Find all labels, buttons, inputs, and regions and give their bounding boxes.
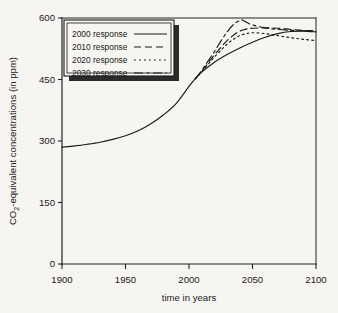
- chart-legend[interactable]: 2000 response2010 response2020 response2…: [64, 20, 179, 81]
- legend-label-2020: 2020 response: [72, 55, 128, 65]
- x-axis-ticks: 19001950200020502100: [51, 264, 326, 285]
- y-tick-label: 450: [39, 74, 55, 85]
- y-tick-label: 0: [50, 258, 55, 269]
- y-tick-label: 300: [39, 135, 55, 146]
- x-tick-label: 1950: [115, 274, 136, 285]
- chart-svg: 0150300450600 19001950200020502100 CO2-e…: [0, 0, 338, 313]
- legend-label-2030: 2030 response: [72, 68, 128, 78]
- y-axis-title-text: CO2-equivalent concentrations (in ppm): [7, 57, 20, 225]
- series-line-2030: [195, 20, 316, 79]
- y-tick-label: 150: [39, 197, 55, 208]
- y-tick-label: 600: [39, 12, 55, 23]
- y-axis-ticks: 0150300450600: [39, 12, 62, 269]
- x-tick-label: 2050: [242, 274, 263, 285]
- chart-figure: 0150300450600 19001950200020502100 CO2-e…: [0, 0, 338, 313]
- x-axis-title: time in years: [162, 292, 217, 303]
- y-axis-title-main: -equivalent concentrations (in ppm): [7, 57, 18, 207]
- legend-label-2000: 2000 response: [72, 29, 128, 39]
- y-axis-title-prefix: CO: [7, 211, 18, 225]
- x-tick-label: 1900: [51, 274, 72, 285]
- x-tick-label: 2100: [305, 274, 326, 285]
- x-tick-label: 2000: [178, 274, 199, 285]
- y-axis-title: CO2-equivalent concentrations (in ppm): [7, 57, 20, 225]
- legend-label-2010: 2010 response: [72, 42, 128, 52]
